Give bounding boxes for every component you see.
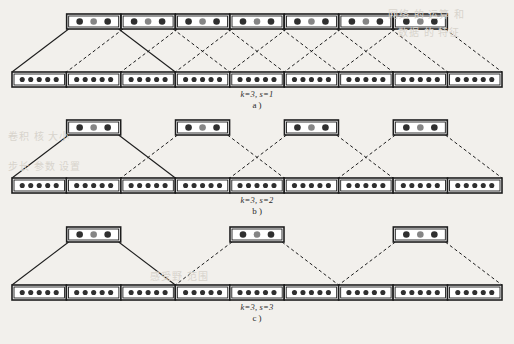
panel-b <box>12 120 502 193</box>
panel-a-input-cell-dot-dark <box>146 77 151 82</box>
panel-b-input-cell-dot-dark <box>20 183 25 188</box>
connector-right-dashed <box>282 242 339 285</box>
panel-a-input-cell-dot-dark <box>137 77 142 82</box>
panel-a-input-cell-dot-dark <box>129 77 134 82</box>
panel-b-output-cell-dot-gray <box>308 124 315 131</box>
connector-right-dashed <box>173 29 230 72</box>
panel-b-input-cell-dot-dark <box>292 183 297 188</box>
panel-a-input-cell-dot-dark <box>426 77 431 82</box>
panel-a-output-cell-dot-gray <box>254 18 261 25</box>
panel-b-input-cell-dot-dark <box>309 183 314 188</box>
panel-b-input-cell-dot-dark <box>37 183 42 188</box>
connector-left-solid <box>12 135 69 178</box>
panel-c-input-cell-dot-dark <box>28 290 33 295</box>
panel-b-output-cell-dot-dark <box>431 124 438 131</box>
panel-c-input-cell-dot-dark <box>418 290 423 295</box>
panel-c-input-cell-dot-dark <box>208 290 213 295</box>
panel-b-input-cell-dot-dark <box>401 183 406 188</box>
panel-a-output-cell-dot-dark <box>213 18 220 25</box>
panel-a-input-cell-dot-dark <box>435 77 440 82</box>
panel-b-input-cell-dot-dark <box>263 183 268 188</box>
panel-a-input-cell-dot-dark <box>154 77 159 82</box>
panel-c-input-cell-dot-dark <box>137 290 142 295</box>
panel-a-input-cell-dot-dark <box>363 77 368 82</box>
panel-b-input-cell-dot-dark <box>129 183 134 188</box>
panel-a-input-cell-dot-dark <box>254 77 259 82</box>
connector-right-solid <box>119 135 176 178</box>
panel-a-output-cell-dot-gray <box>90 18 97 25</box>
panel-a-input-cell-dot-dark <box>100 77 105 82</box>
panel-b-input-cell-dot-dark <box>137 183 142 188</box>
connector-right-dashed <box>228 135 285 178</box>
panel-c-output-cell-dot-dark <box>240 231 247 238</box>
panel-b-input-cell-dot-dark <box>217 183 222 188</box>
panel-c-input-cell-dot-dark <box>426 290 431 295</box>
panel-b-input-cell-dot-dark <box>346 183 351 188</box>
connector-left-dashed <box>339 242 396 285</box>
connector-left-dashed <box>175 242 232 285</box>
panel-c-output-cell-dot-gray <box>90 231 97 238</box>
panel-c-input-cell-dot-dark <box>380 290 385 295</box>
panel-b-input-cell-dot-dark <box>355 183 360 188</box>
panel-b-input-cell-dot-dark <box>317 183 322 188</box>
panel-b-input-cell-dot-dark <box>200 183 205 188</box>
connector-left-dashed <box>284 29 341 72</box>
panel-a-input-cell-dot-dark <box>37 77 42 82</box>
panel-a-output-cell-dot-dark <box>185 18 192 25</box>
connector-right-dashed <box>228 29 285 72</box>
connector-left-dashed <box>230 29 287 72</box>
panel-a-input-cell-dot-dark <box>409 77 414 82</box>
panel-a-output-cell-dot-gray <box>145 18 152 25</box>
panel-a-input-cell-dot-dark <box>372 77 377 82</box>
panel-b-input-cell-dot-dark <box>246 183 251 188</box>
panel-a-input-cell-dot-dark <box>263 77 268 82</box>
panel-c-input-cell-dot-dark <box>254 290 259 295</box>
panel-b-output-cell-dot-dark <box>104 124 111 131</box>
panel-b-input-cell-dot-dark <box>237 183 242 188</box>
panel-a-input-cell-dot-dark <box>83 77 88 82</box>
panel-a-letter-label: a ) <box>0 100 514 110</box>
panel-b-input-cell-dot-dark <box>363 183 368 188</box>
panel-c-input-cell-dot-dark <box>346 290 351 295</box>
panel-c-input-cell-dot-dark <box>45 290 50 295</box>
panel-a-input-cell-dot-dark <box>91 77 96 82</box>
panel-c-input-cell-dot-dark <box>326 290 331 295</box>
connector-left-dashed <box>121 135 178 178</box>
panel-c-input-cell-dot-dark <box>292 290 297 295</box>
panel-a-input-cell-dot-dark <box>208 77 213 82</box>
panel-c-input-cell-dot-dark <box>108 290 113 295</box>
panel-c-output-cell-dot-dark <box>431 231 438 238</box>
panel-a-input-cell-dot-dark <box>326 77 331 82</box>
panel-b-input-cell-dot-dark <box>426 183 431 188</box>
panel-b-input-cell-dot-dark <box>464 183 469 188</box>
panel-a <box>12 14 502 87</box>
panel-a-output-cell-dot-gray <box>363 18 370 25</box>
panel-b-input-cell-dot-dark <box>54 183 59 188</box>
panel-c-input-cell-dot-dark <box>91 290 96 295</box>
panel-a-input-cell-dot-dark <box>192 77 197 82</box>
panel-b-input-cell-dot-dark <box>435 183 440 188</box>
panel-c-input-cell-dot-dark <box>409 290 414 295</box>
panel-b-input-cell-dot-dark <box>163 183 168 188</box>
panel-c-input-cell-dot-dark <box>481 290 486 295</box>
panel-a-input-cell-dot-dark <box>346 77 351 82</box>
panel-a-output-cell-dot-gray <box>417 18 424 25</box>
panel-c-input-cell-dot-dark <box>74 290 79 295</box>
panel-c-input-cell-dot-dark <box>163 290 168 295</box>
panel-a-input-cell-dot-dark <box>200 77 205 82</box>
panel-c-input-cell-dot-dark <box>54 290 59 295</box>
panel-b-output-cell-dot-dark <box>322 124 329 131</box>
panel-c-input-cell-dot-dark <box>200 290 205 295</box>
panel-b-input-cell-dot-dark <box>418 183 423 188</box>
connector-right-dashed <box>391 29 448 72</box>
panel-b-output-cell-dot-dark <box>294 124 301 131</box>
panel-a-input-cell-dot-dark <box>481 77 486 82</box>
panel-c-input-cell-dot-dark <box>217 290 222 295</box>
panel-a-input-cell-dot-dark <box>292 77 297 82</box>
panel-a-input-cell-dot-dark <box>20 77 25 82</box>
panel-c-input-cell-dot-dark <box>455 290 460 295</box>
connector-right-dashed <box>336 29 393 72</box>
panel-c-letter-label: c ) <box>0 313 514 323</box>
panel-c-input-cell-dot-dark <box>192 290 197 295</box>
panel-b-output-cell-dot-gray <box>199 124 206 131</box>
